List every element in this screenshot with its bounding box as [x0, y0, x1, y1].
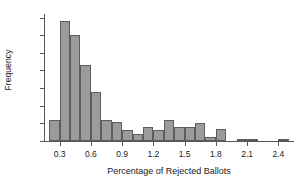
histogram-bar [237, 139, 247, 141]
x-tick-mark [216, 142, 217, 146]
histogram-bar [174, 127, 184, 141]
histogram-bar [112, 122, 122, 141]
x-tick-mark [185, 142, 186, 146]
histogram-bar [205, 137, 215, 141]
histogram-bar [195, 123, 205, 141]
histogram-bar [60, 21, 70, 141]
histogram-bar [278, 139, 288, 141]
x-tick-label: 2.4 [263, 150, 293, 159]
histogram-figure: Frequency 010203040506070 0.30.60.91.21.… [0, 0, 300, 195]
x-tick-mark [91, 142, 92, 146]
histogram-bar [91, 92, 101, 141]
histogram-bar [70, 35, 80, 141]
x-tick-mark [247, 142, 248, 146]
plot-area: 010203040506070 0.30.60.91.21.51.82.12.4 [44, 14, 294, 142]
histogram-bar [216, 129, 226, 141]
x-tick-label: 1.5 [170, 150, 200, 159]
histogram-bar [133, 134, 143, 141]
histogram-bar [101, 120, 111, 141]
x-tick-mark [153, 142, 154, 146]
histogram-bar [185, 127, 195, 141]
histogram-bar [49, 120, 59, 141]
x-tick-label: 0.3 [45, 150, 75, 159]
histogram-bar [247, 139, 257, 141]
x-tick-label: 0.6 [76, 150, 106, 159]
x-tick-mark [278, 142, 279, 146]
x-tick-label: 1.2 [138, 150, 168, 159]
histogram-bar [143, 127, 153, 141]
histogram-bar [164, 120, 174, 141]
histogram-bars [44, 14, 294, 142]
x-tick-label: 1.8 [201, 150, 231, 159]
histogram-bar [80, 65, 90, 141]
x-tick-label: 2.1 [232, 150, 262, 159]
x-tick-mark [122, 142, 123, 146]
x-axis-title: Percentage of Rejected Ballots [44, 166, 294, 176]
x-tick-label: 0.9 [107, 150, 137, 159]
histogram-bar [153, 130, 163, 141]
y-axis-title-text: Frequency [3, 49, 13, 90]
y-axis-title: Frequency [0, 0, 16, 140]
x-tick-mark [60, 142, 61, 146]
histogram-bar [122, 130, 132, 141]
